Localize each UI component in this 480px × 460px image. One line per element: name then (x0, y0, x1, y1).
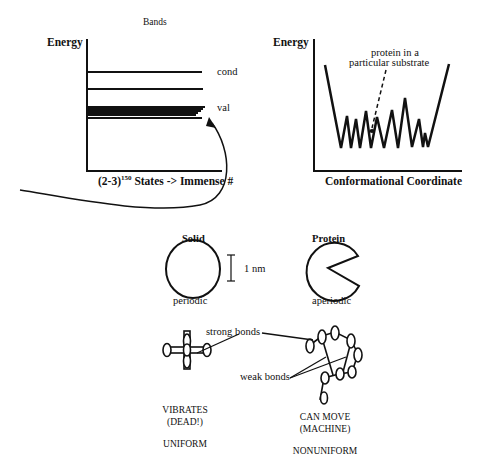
landscape-y-label: Energy (273, 36, 309, 48)
diagram-canvas (0, 0, 480, 460)
bands-y-label: Energy (47, 36, 83, 48)
cond-label: cond (217, 66, 237, 77)
energy-levels (88, 72, 205, 118)
protein-caption: aperiodic (312, 295, 351, 306)
protein-pacman-shape (307, 243, 359, 301)
bands-axes (86, 39, 222, 171)
val-label: val (217, 102, 230, 113)
scale-bar (227, 255, 235, 281)
weak-bonds-label: weak bonds (240, 371, 290, 382)
solid-description: VIBRATES (DEAD!) UNIFORM (150, 404, 220, 450)
protein-title: Protein (312, 233, 345, 244)
strong-bonds-label: strong bonds (206, 326, 260, 337)
solid-title: Solid (182, 233, 205, 244)
protein-description: CAN MOVE (MACHINE) NONUNIFORM (290, 411, 360, 457)
energy-landscape-curve (325, 64, 449, 148)
substrate-marker (370, 129, 375, 133)
solid-caption: periodic (173, 295, 207, 306)
protein-molecule (306, 326, 362, 404)
arrowhead-icon (206, 117, 216, 128)
solid-circle (166, 240, 220, 298)
scale-label: 1 nm (244, 263, 265, 274)
annotation-dashed-line (372, 70, 386, 128)
bands-x-label: (2-3)150 States -> Immense # (98, 174, 233, 187)
annotation-line2: particular substrate (349, 57, 429, 68)
landscape-x-label: Conformational Coordinate (325, 175, 462, 187)
curved-arrow (20, 123, 227, 208)
bands-title: Bands (143, 17, 167, 27)
